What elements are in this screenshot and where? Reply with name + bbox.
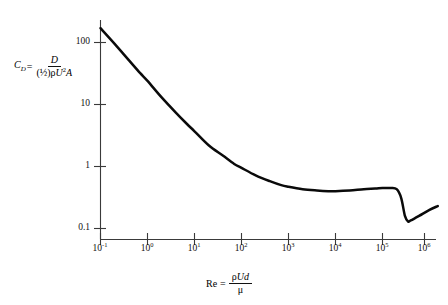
- x-tick-label-1e3: 103: [282, 244, 295, 254]
- y-axis-title-numerator: D: [48, 54, 61, 67]
- diameter-symbol: d: [244, 271, 249, 282]
- y-tick-label-1: 1: [56, 161, 90, 171]
- x-tick-mantissa: 10: [376, 243, 386, 253]
- reynolds-symbol: Re: [206, 278, 217, 289]
- x-tick-mantissa: 10: [329, 243, 339, 253]
- drag-coefficient-chart: 100 10 1 0.1 10-1 100 101 102 103 104 10…: [0, 0, 448, 305]
- x-tick-exponent: 5: [385, 241, 388, 248]
- x-tick-label-1e1: 101: [188, 244, 201, 254]
- x-tick-exponent: 4: [338, 241, 341, 248]
- y-axis-title-fraction: D (½)ρU2A: [33, 54, 75, 79]
- half-factor: (½): [36, 67, 50, 78]
- y-axis-title-equals: =: [27, 61, 33, 72]
- y-axis-title-denominator: (½)ρU2A: [33, 67, 75, 79]
- drag-curve: [101, 28, 438, 222]
- x-axis-title-denominator: μ: [235, 284, 246, 296]
- velocity-symbol: U: [237, 271, 244, 282]
- x-tick-mantissa: 10: [188, 243, 198, 253]
- y-axis-title-lhs: CD: [14, 59, 26, 73]
- x-axis-title-numerator: ρUd: [229, 271, 252, 284]
- x-tick-mantissa: 10: [418, 243, 428, 253]
- x-tick-exponent: 0: [150, 241, 153, 248]
- x-axis-title: Re = ρUd μ: [206, 271, 253, 296]
- x-tick-exponent: 6: [427, 241, 430, 248]
- x-tick-mantissa: 10: [93, 243, 103, 253]
- y-tick-label-0-1: 0.1: [56, 223, 90, 233]
- x-axis-title-fraction: ρUd μ: [229, 271, 252, 296]
- x-tick-mantissa: 10: [235, 243, 245, 253]
- x-tick-exponent: 3: [291, 241, 294, 248]
- x-tick-exponent: -1: [102, 241, 107, 248]
- x-tick-label-1e2: 102: [235, 244, 248, 254]
- cd-subscript: D: [21, 65, 26, 73]
- y-axis-title: CD = D (½)ρU2A: [14, 54, 76, 79]
- x-tick-mantissa: 10: [282, 243, 292, 253]
- x-tick-label-1e5: 105: [376, 244, 389, 254]
- y-tick-label-10: 10: [56, 99, 90, 109]
- x-tick-label-1e-1: 10-1: [93, 244, 108, 254]
- velocity-symbol: U: [56, 67, 63, 78]
- x-tick-label-1e0: 100: [141, 244, 154, 254]
- x-tick-label-1e6: 106: [418, 244, 431, 254]
- y-tick-label-100: 100: [56, 37, 90, 47]
- x-tick-exponent: 2: [244, 241, 247, 248]
- x-axis-title-equals: =: [220, 278, 226, 289]
- cd-symbol: C: [14, 59, 21, 70]
- x-tick-label-1e4: 104: [329, 244, 342, 254]
- x-tick-mantissa: 10: [141, 243, 151, 253]
- area-symbol: A: [66, 67, 72, 78]
- x-tick-exponent: 1: [197, 241, 200, 248]
